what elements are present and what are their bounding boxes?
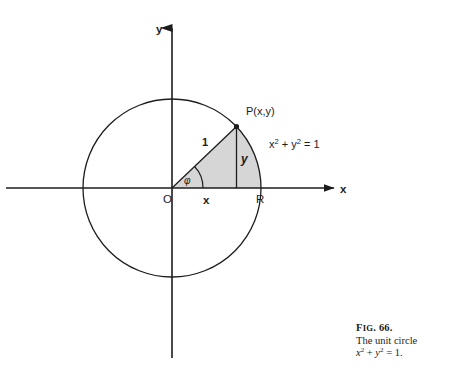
circle-equation-label: x2 + y2 = 1 <box>269 137 320 150</box>
caption-equation: x2 + y2 = 1. <box>356 347 455 360</box>
y-axis-label: y <box>156 23 163 35</box>
point-r-label: R <box>256 193 264 205</box>
caption-fig-smallcaps: IG <box>363 323 374 333</box>
svg-text:x2 + y2 = 1: x2 + y2 = 1 <box>269 137 320 150</box>
caption-description: The unit circle <box>356 335 455 348</box>
point-p-marker <box>234 124 239 129</box>
caption-eq-plus: + <box>364 347 375 358</box>
caption-fig-number: . 66. <box>373 322 392 333</box>
origin-label: O <box>163 193 172 205</box>
angle-phi-label: φ <box>184 175 191 186</box>
figure-caption: FIG. 66. The unit circle x2 + y2 = 1. <box>356 322 455 360</box>
x-axis-label: x <box>340 183 347 195</box>
caption-figure-number: FIG. 66. <box>356 322 455 335</box>
eq-equals: = 1 <box>301 138 320 150</box>
point-p-label: P(x,y) <box>246 105 275 117</box>
caption-eq-tail: = 1. <box>384 347 403 358</box>
figure-root: x y O R P(x,y) 1 y x φ x2 + y2 = 1 FIG. … <box>0 0 455 386</box>
vertical-leg-label: y <box>240 152 249 166</box>
eq-plus: + <box>279 138 292 150</box>
radius-length-label: 1 <box>202 136 208 148</box>
caption-fig-prefix: F <box>356 322 363 333</box>
horizontal-leg-label: x <box>203 194 210 206</box>
